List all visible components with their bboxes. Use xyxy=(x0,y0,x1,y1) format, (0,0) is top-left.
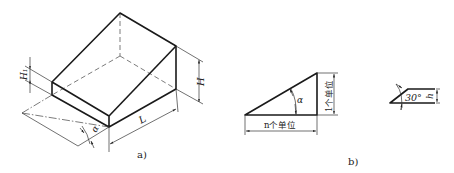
label-L: L xyxy=(136,113,148,126)
label-H1: H₁ xyxy=(19,69,29,81)
label-alpha-b: α xyxy=(297,95,303,105)
label-n-units: n个单位 xyxy=(264,120,296,130)
label-30-degrees: 30° xyxy=(405,92,422,103)
caption-a: a) xyxy=(137,149,147,160)
label-h: h xyxy=(425,93,435,99)
panel-a-wedge xyxy=(22,13,203,152)
label-one-unit: 1个单位 xyxy=(324,80,334,112)
wedge-diagram: H H₁ L α a) α 1个单位 n个单位 b) 30° h xyxy=(0,0,454,173)
caption-b: b) xyxy=(348,156,358,167)
label-H: H xyxy=(195,77,206,87)
